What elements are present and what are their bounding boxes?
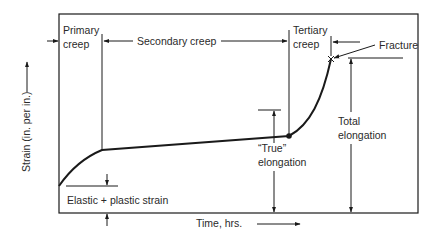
creep-curve-diagram: Primary creep Secondary creep Tertiary c… — [0, 0, 427, 239]
tertiary-creep-label-1: Tertiary — [293, 24, 328, 36]
tertiary-creep-label-2: creep — [293, 38, 319, 50]
y-axis-label: Strain (in. per in.) — [20, 91, 32, 172]
fracture-label: Fracture — [379, 39, 418, 51]
true-elongation-label-2: elongation — [258, 156, 307, 168]
secondary-creep-label: Secondary creep — [137, 35, 217, 47]
elastic-plastic-label: Elastic + plastic strain — [67, 194, 168, 206]
true-elongation-label-1: “True” — [258, 142, 287, 154]
total-elongation-label-2: elongation — [338, 129, 387, 141]
plot-frame — [59, 14, 418, 213]
primary-creep-label-2: creep — [63, 38, 89, 50]
fracture-pointer-arrow — [334, 45, 375, 58]
x-axis-label: Time, hrs. — [196, 217, 242, 229]
primary-creep-label-1: Primary — [63, 24, 100, 36]
total-elongation-label-1: Total — [338, 115, 360, 127]
